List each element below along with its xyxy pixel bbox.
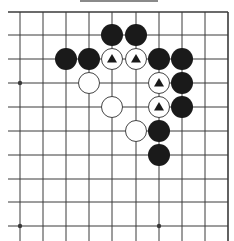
black-stone-icon (78, 48, 100, 70)
black-stone (125, 24, 147, 46)
star-point (18, 81, 22, 85)
black-stone-icon (101, 24, 123, 46)
black-stone (148, 144, 170, 166)
white-stone-icon (79, 73, 100, 94)
white-stone (79, 73, 100, 94)
white-stone (149, 97, 170, 118)
black-stone-icon (171, 72, 193, 94)
white-stone-icon (102, 97, 123, 118)
white-stone (126, 121, 147, 142)
stones (55, 24, 193, 166)
black-stone (101, 24, 123, 46)
white-stone (149, 73, 170, 94)
black-stone (55, 48, 77, 70)
grid-lines (8, 12, 228, 241)
black-stone (171, 96, 193, 118)
black-stone (171, 48, 193, 70)
star-point (157, 224, 161, 228)
black-stone-icon (125, 24, 147, 46)
white-stone-icon (126, 121, 147, 142)
black-stone-icon (148, 144, 170, 166)
black-stone-icon (148, 120, 170, 142)
star-point (18, 224, 22, 228)
white-stone (102, 49, 123, 70)
go-board (0, 0, 234, 241)
white-stone (102, 97, 123, 118)
black-stone-icon (171, 48, 193, 70)
black-stone (78, 48, 100, 70)
black-stone (148, 48, 170, 70)
black-stone-icon (171, 96, 193, 118)
white-stone (126, 49, 147, 70)
black-stone (171, 72, 193, 94)
black-stone-icon (55, 48, 77, 70)
black-stone (148, 120, 170, 142)
black-stone-icon (148, 48, 170, 70)
